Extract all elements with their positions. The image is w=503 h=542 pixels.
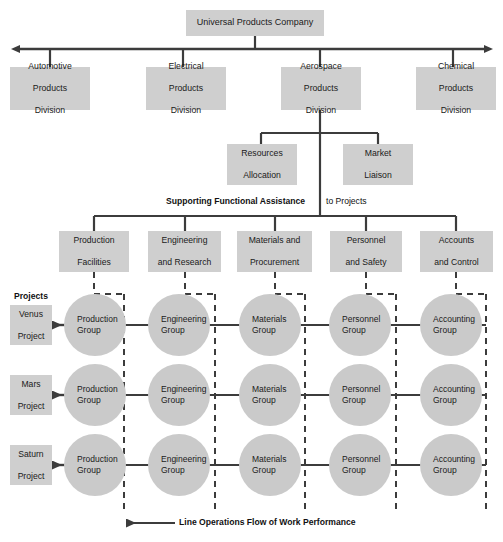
label-bold-part: Supporting Functional Assistance	[166, 196, 305, 206]
line-1: Accounting	[433, 454, 475, 464]
node-label: Engineering and Research	[148, 235, 221, 268]
label-to-projects: to Projects	[326, 196, 367, 206]
circle-label: Personnel Group	[329, 384, 391, 406]
circle-label: Materials Group	[239, 384, 301, 406]
node-label: Market Liaison	[343, 148, 413, 181]
line-2: Group	[161, 395, 185, 405]
node-label: Chemical Products Division	[416, 61, 496, 117]
node-saturn-project[interactable]: Saturn Project	[10, 445, 52, 485]
line-2: Liaison	[343, 170, 413, 181]
line-2: Products	[416, 83, 496, 94]
line-2: Group	[161, 325, 185, 335]
line-2: Group	[77, 465, 101, 475]
node-personnel-and-safety[interactable]: Personnel and Safety	[330, 231, 402, 272]
node-automotive-products-division[interactable]: Automotive Products Division	[10, 67, 90, 110]
node-label: Aerospace Products Division	[281, 61, 361, 117]
node-aerospace-products-division[interactable]: Aerospace Products Division	[281, 67, 361, 110]
line-1: Chemical	[416, 61, 496, 72]
circle-mars-personnel-group[interactable]: Personnel Group	[329, 364, 391, 426]
line-2: Project	[10, 471, 52, 482]
node-accounts-and-control[interactable]: Accounts and Control	[420, 231, 493, 272]
line-1: Aerospace	[281, 61, 361, 72]
circle-label: Production Group	[64, 314, 126, 336]
line-2: Group	[77, 325, 101, 335]
circle-label: Production Group	[64, 454, 126, 476]
line-2: Group	[252, 465, 276, 475]
line-1: Engineering	[148, 235, 221, 246]
line-1: Materials and	[237, 235, 312, 246]
node-production-facilities[interactable]: Production Facilities	[59, 231, 129, 272]
node-materials-and-procurement[interactable]: Materials and Procurement	[237, 231, 312, 272]
circle-saturn-accounting-group[interactable]: Accounting Group	[420, 434, 482, 496]
circle-venus-engineering-group[interactable]: Engineering Group	[148, 294, 210, 356]
line-2: Products	[10, 83, 90, 94]
line-2: and Safety	[330, 257, 402, 268]
circle-saturn-materials-group[interactable]: Materials Group	[239, 434, 301, 496]
circle-mars-engineering-group[interactable]: Engineering Group	[148, 364, 210, 426]
line-1: Production	[77, 454, 118, 464]
node-label: Mars Project	[10, 379, 52, 412]
line-1: Materials	[252, 454, 286, 464]
circle-label: Accounting Group	[420, 314, 482, 336]
section-label-text: Projects	[14, 291, 48, 301]
node-electrical-products-division[interactable]: Electrical Products Division	[146, 67, 226, 110]
line-1: Production	[59, 235, 129, 246]
node-label: Automotive Products Division	[10, 61, 90, 117]
line-2: Project	[10, 331, 52, 342]
node-label: Materials and Procurement	[237, 235, 312, 268]
node-market-liaison[interactable]: Market Liaison	[343, 144, 413, 185]
node-venus-project[interactable]: Venus Project	[10, 305, 52, 345]
node-label: Resources Allocation	[227, 148, 297, 181]
line-3: Division	[281, 105, 361, 116]
label-plain-part: to Projects	[326, 196, 367, 206]
node-engineering-and-research[interactable]: Engineering and Research	[148, 231, 221, 272]
line-1: Accounts	[420, 235, 493, 246]
line-2: Group	[252, 325, 276, 335]
line-2: Allocation	[227, 170, 297, 181]
line-2: Group	[342, 325, 366, 335]
line-1: Venus	[10, 309, 52, 320]
line-1: Personnel	[330, 235, 402, 246]
circle-venus-materials-group[interactable]: Materials Group	[239, 294, 301, 356]
circle-label: Production Group	[64, 384, 126, 406]
line-1: Personnel	[342, 384, 380, 394]
node-label: Personnel and Safety	[330, 235, 402, 268]
line-2: Facilities	[59, 257, 129, 268]
line-3: Division	[10, 105, 90, 116]
circle-label: Personnel Group	[329, 454, 391, 476]
line-2: Products	[281, 83, 361, 94]
line-1: Market	[343, 148, 413, 159]
line-2: Group	[433, 395, 457, 405]
line-1: Automotive	[10, 61, 90, 72]
node-chemical-products-division[interactable]: Chemical Products Division	[416, 67, 496, 110]
bottom-caption-text: Line Operations Flow of Work Performance	[179, 517, 356, 527]
circle-mars-accounting-group[interactable]: Accounting Group	[420, 364, 482, 426]
label-line-operations-flow: Line Operations Flow of Work Performance	[179, 517, 356, 527]
label-projects-section: Projects	[14, 291, 48, 301]
circle-venus-production-group[interactable]: Production Group	[64, 294, 126, 356]
node-mars-project[interactable]: Mars Project	[10, 375, 52, 415]
line-2: Group	[433, 465, 457, 475]
node-label: Universal Products Company	[186, 17, 324, 29]
node-universal-products-company[interactable]: Universal Products Company	[186, 10, 324, 36]
line-3: Division	[416, 105, 496, 116]
circle-venus-personnel-group[interactable]: Personnel Group	[329, 294, 391, 356]
line-1: Production	[77, 384, 118, 394]
circle-label: Personnel Group	[329, 314, 391, 336]
circle-saturn-engineering-group[interactable]: Engineering Group	[148, 434, 210, 496]
circle-venus-accounting-group[interactable]: Accounting Group	[420, 294, 482, 356]
line-1: Engineering	[161, 314, 206, 324]
line-2: Group	[161, 465, 185, 475]
circle-saturn-personnel-group[interactable]: Personnel Group	[329, 434, 391, 496]
circle-mars-production-group[interactable]: Production Group	[64, 364, 126, 426]
circle-label: Engineering Group	[148, 454, 210, 476]
node-label: Electrical Products Division	[146, 61, 226, 117]
line-1: Personnel	[342, 454, 380, 464]
circle-label: Materials Group	[239, 454, 301, 476]
node-label: Saturn Project	[10, 449, 52, 482]
node-resources-allocation[interactable]: Resources Allocation	[227, 144, 297, 185]
line-2: Group	[77, 395, 101, 405]
circle-saturn-production-group[interactable]: Production Group	[64, 434, 126, 496]
circle-mars-materials-group[interactable]: Materials Group	[239, 364, 301, 426]
line-1: Materials	[252, 384, 286, 394]
